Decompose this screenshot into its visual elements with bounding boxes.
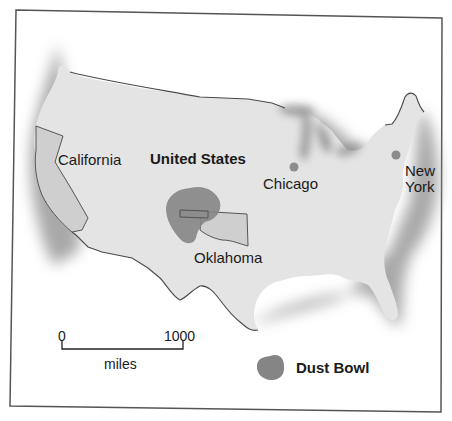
california-label: California [58, 151, 121, 168]
country-label: United States [150, 150, 246, 167]
us-dust-bowl-map [0, 0, 452, 421]
scale-end-label: 1000 [164, 328, 195, 345]
new-york-label-line2: York [405, 178, 434, 195]
new-york-dot [392, 151, 401, 160]
new-york-label-line1: New [405, 162, 435, 179]
dust-bowl-legend-label: Dust Bowl [296, 359, 369, 376]
scale-start-label: 0 [58, 328, 66, 345]
chicago-dot [290, 163, 299, 172]
scale-unit-label: miles [104, 356, 137, 373]
chicago-label: Chicago [263, 175, 318, 192]
oklahoma-label: Oklahoma [194, 249, 262, 266]
